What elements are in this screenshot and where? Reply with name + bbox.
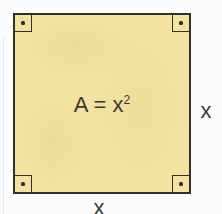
side-length-label-bottom: x (91, 197, 107, 214)
area-formula-base: A = x (74, 92, 124, 117)
area-formula-exponent: 2 (123, 93, 130, 107)
square-shape: A = x2 (13, 13, 191, 194)
right-angle-marker-top-left (15, 15, 32, 32)
figure-canvas: A = x2 x x (0, 0, 222, 214)
right-angle-marker-bottom-right (172, 175, 189, 192)
vertex-dot-icon (179, 182, 184, 187)
right-angle-marker-top-right (172, 15, 189, 32)
right-angle-marker-bottom-left (15, 175, 32, 192)
vertex-dot-icon (179, 21, 184, 26)
area-formula: A = x2 (15, 94, 189, 116)
scan-artifact-line (3, 36, 4, 214)
vertex-dot-icon (21, 182, 26, 187)
side-length-label-right: x (198, 100, 214, 122)
vertex-dot-icon (21, 21, 26, 26)
